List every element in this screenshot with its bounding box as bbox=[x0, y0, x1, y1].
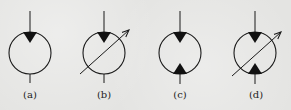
label-a: (a) bbox=[15, 89, 45, 101]
outflow-triangle-icon bbox=[23, 32, 37, 43]
label-c: (c) bbox=[165, 89, 195, 101]
symbol-c bbox=[159, 11, 201, 84]
label-d: (d) bbox=[241, 89, 271, 101]
symbol-a bbox=[9, 11, 51, 83]
label-b: (b) bbox=[89, 89, 119, 101]
outflow-triangle-bottom-icon bbox=[173, 63, 187, 74]
outflow-triangle-top-icon bbox=[248, 32, 262, 43]
diagram-canvas: (a) (b) (c) (d) bbox=[0, 0, 291, 110]
symbol-b bbox=[80, 11, 129, 83]
outflow-triangle-icon bbox=[97, 32, 111, 43]
outflow-triangle-top-icon bbox=[173, 32, 187, 43]
symbol-d bbox=[232, 11, 281, 84]
outflow-triangle-bottom-icon bbox=[248, 63, 262, 74]
